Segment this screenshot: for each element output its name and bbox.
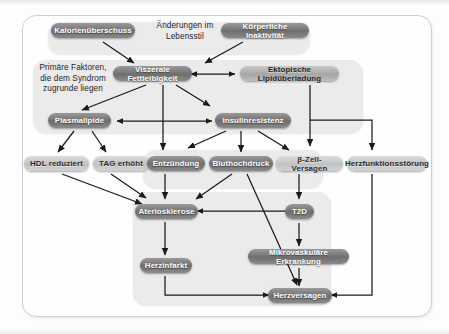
node-tag-erhoeht[interactable]: TAG erhöht [93,156,149,171]
node-hdl-reduziert[interactable]: HDL reduziert [24,156,89,171]
group-caption-primary-line3: zugrunde liegen [27,84,119,95]
node-viszerale-fettleibigkeit[interactable]: Viszerale Fettleibigkeit [113,66,192,81]
node-ateriosklerose[interactable]: Ateriosklerose [135,204,198,219]
group-caption-lifestyle: Änderungen im Lebensstil [140,21,230,42]
node-herzversagen[interactable]: Herzversagen [268,288,332,303]
scan-edge-bottom [0,329,449,334]
group-caption-primary-line1: Primäre Faktoren, [27,63,119,74]
scan-edge-top [0,0,449,4]
group-caption-primary: Primäre Faktoren, die dem Syndrom zugrun… [27,63,119,95]
node-t2d[interactable]: T2D [285,204,314,219]
node-koerperliche-inaktivitaet[interactable]: Körperliche Inaktivität [221,23,309,38]
node-insulinresistenz[interactable]: Insulinresistenz [215,113,291,128]
group-caption-lifestyle-line2: Lebensstil [140,32,230,43]
node-beta-zell-versagen[interactable]: β-Zell-Versagen [276,156,343,171]
node-kalorienueberschuss[interactable]: Kalorienüberschuss [51,23,135,38]
group-caption-lifestyle-line1: Änderungen im [140,21,230,32]
node-ektopische-lipidueberladung[interactable]: Ektopische Lipidüberladung [240,66,339,81]
node-bluthochdruck[interactable]: Bluthochdruck [209,156,273,171]
node-plasmalipide[interactable]: Plasmalipide [48,113,111,128]
group-caption-primary-line2: die dem Syndrom [27,74,119,85]
node-herzinfarkt[interactable]: Herzinfarkt [140,258,192,273]
node-mikrovaskulaere-erkrankung[interactable]: Mikrovaskuläre Erkrankung [248,249,349,264]
node-entzuendung[interactable]: Entzündung [147,156,205,171]
diagram-canvas: Änderungen im Lebensstil Primäre Faktore… [0,0,449,334]
node-herzfunktionsstoerung[interactable]: Herzfunktionsstörung [347,156,427,171]
